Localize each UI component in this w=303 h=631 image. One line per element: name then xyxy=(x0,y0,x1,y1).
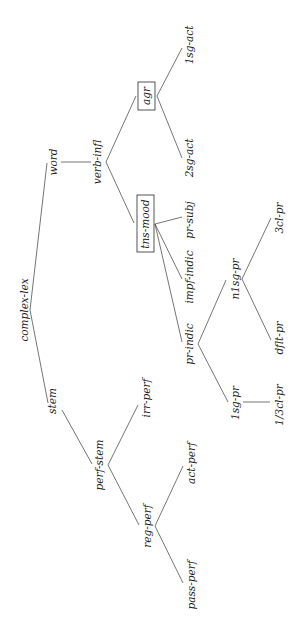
node-2sg-act: 2sg-act xyxy=(183,138,195,178)
node-reg-perf: reg-perf xyxy=(141,502,153,547)
edge-stem-perf-stem xyxy=(62,410,92,464)
node-agr: agr xyxy=(140,86,152,105)
node-pr-indic: pr-indic xyxy=(183,323,195,364)
edge-tns-mood-pr-indic xyxy=(155,224,182,342)
edge-n1sg-pr-3cl-pr xyxy=(242,218,271,279)
edge-pr-indic-1sg-pr xyxy=(198,344,228,402)
edge-pr-indic-n1sg-pr xyxy=(198,280,226,344)
node-3cl-pr: 3cl-pr xyxy=(273,201,285,233)
edge-perf-stem-irr-perf xyxy=(108,405,138,465)
node-1sg-pr: 1sg-pr xyxy=(229,385,241,420)
edge-agr-2sg-act xyxy=(157,96,182,158)
node-impf-indic: impf-indic xyxy=(183,250,195,303)
node-1-3cl-pr: 1/3cl-pr xyxy=(273,383,285,425)
tree-labels: complex-lex word stem verb-infl agr tns-… xyxy=(18,25,285,610)
edge-tns-mood-impf-indic xyxy=(155,224,182,279)
node-n1sg-pr: n1sg-pr xyxy=(229,258,241,300)
node-pass-perf: pass-perf xyxy=(185,558,197,609)
edge-reg-perf-act-perf xyxy=(155,466,183,526)
edge-perf-stem-reg-perf xyxy=(108,465,139,525)
inheritance-tree-diagram: complex-lex word stem verb-infl agr tns-… xyxy=(0,0,303,631)
node-perf-stem: perf-stem xyxy=(93,440,105,491)
node-verb-infl: verb-infl xyxy=(91,140,103,185)
edge-verb-infl-agr xyxy=(106,96,136,162)
node-word: word xyxy=(47,148,59,175)
edge-n1sg-pr-dflt-pr xyxy=(242,279,271,340)
node-1sg-act: 1sg-act xyxy=(183,25,195,64)
edge-complex-lex-word xyxy=(30,163,47,310)
node-dflt-pr: dflt-pr xyxy=(273,320,285,354)
node-complex-lex: complex-lex xyxy=(18,278,30,341)
edge-tns-mood-pr-subj xyxy=(155,217,182,224)
edge-agr-1sg-act xyxy=(157,48,182,96)
node-irr-perf: irr-perf xyxy=(140,376,152,417)
edge-verb-infl-tns-mood xyxy=(106,162,134,223)
node-pr-subj: pr-subj xyxy=(183,201,195,239)
edge-reg-perf-pass-perf xyxy=(155,526,183,583)
node-stem: stem xyxy=(46,388,58,414)
node-act-perf: act-perf xyxy=(185,440,197,484)
node-tns-mood: tns-mood xyxy=(139,199,151,249)
tree-edges xyxy=(30,48,271,583)
